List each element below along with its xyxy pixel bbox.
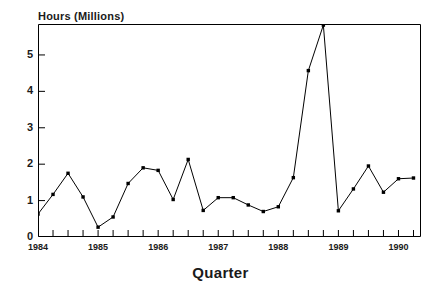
y-tick-label: 0 <box>17 230 33 242</box>
x-tick-label: 1989 <box>318 242 358 252</box>
plot-area <box>38 24 421 237</box>
x-tick-label: 1988 <box>258 242 298 252</box>
x-axis-label: Quarter <box>0 264 441 281</box>
y-axis-label: Hours (Millions) <box>38 10 124 22</box>
y-tick-label: 4 <box>17 84 33 96</box>
x-tick-label: 1986 <box>138 242 178 252</box>
y-tick-label: 2 <box>17 157 33 169</box>
y-tick-label: 5 <box>17 48 33 60</box>
x-tick-label: 1987 <box>198 242 238 252</box>
x-tick-label: 1984 <box>18 242 58 252</box>
x-tick-label: 1985 <box>78 242 118 252</box>
x-tick-label: 1990 <box>378 242 418 252</box>
y-tick-label: 1 <box>17 194 33 206</box>
chart-figure: Hours (Millions) 012345 1984198519861987… <box>0 0 441 294</box>
y-tick-label: 3 <box>17 121 33 133</box>
line-chart-svg <box>38 24 421 237</box>
